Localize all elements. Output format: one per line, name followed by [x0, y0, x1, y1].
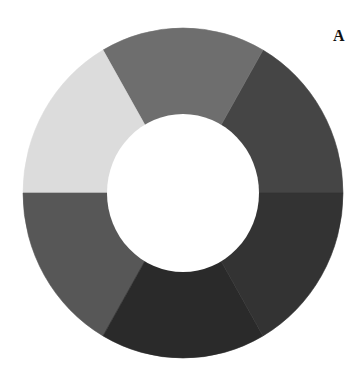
donut-hole	[107, 114, 259, 272]
donut-chart	[0, 0, 364, 380]
panel-label: A	[333, 28, 345, 44]
